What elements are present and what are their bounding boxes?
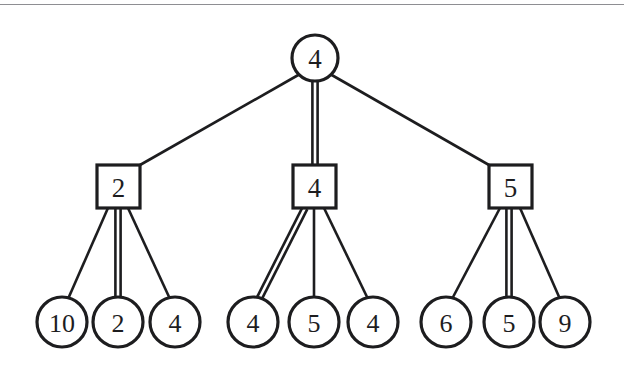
internal-node-2-0-label: 2 xyxy=(112,173,126,203)
edge-e-right-3 xyxy=(520,208,560,299)
edge-line-b xyxy=(257,207,303,298)
leaf-node-5-label: 4 xyxy=(367,309,380,338)
edge-e-left-2 xyxy=(115,208,120,297)
leaf-node-2[interactable]: 4 xyxy=(150,297,200,347)
edge-e-left-1 xyxy=(68,208,108,299)
leaf-node-5[interactable]: 4 xyxy=(348,297,398,347)
edge-e-root-right xyxy=(330,74,489,165)
leaf-node-3[interactable]: 4 xyxy=(228,297,278,347)
leaf-node-4-label: 5 xyxy=(308,309,321,338)
leaf-node-1[interactable]: 2 xyxy=(93,297,143,347)
leaf-node-0-label: 10 xyxy=(49,309,75,338)
leaf-node-8[interactable]: 9 xyxy=(540,297,590,347)
edge-e-root-left xyxy=(140,74,300,165)
tree-diagram-svg: 24541024454659 xyxy=(0,0,624,370)
leaf-node-4[interactable]: 5 xyxy=(289,297,339,347)
edge-line xyxy=(520,208,560,299)
edge-line xyxy=(128,208,170,299)
internal-node-5-2-label: 5 xyxy=(504,173,518,203)
edge-e-mid-1 xyxy=(257,207,308,300)
internal-node-2-0[interactable]: 2 xyxy=(97,165,140,208)
leaf-node-6[interactable]: 6 xyxy=(421,297,471,347)
leaf-node-7[interactable]: 5 xyxy=(484,297,534,347)
edge-line xyxy=(68,208,108,299)
nodes-layer: 24541024454659 xyxy=(37,35,590,347)
diagram-canvas: 24541024454659 xyxy=(0,0,624,370)
leaf-node-3-label: 4 xyxy=(247,309,260,338)
edge-line xyxy=(452,208,500,299)
edge-line xyxy=(140,74,300,165)
edge-e-root-middle xyxy=(312,81,317,165)
edge-line xyxy=(324,208,368,299)
edge-e-mid-3 xyxy=(324,208,368,299)
edge-e-right-1 xyxy=(452,208,500,299)
leaf-node-1-label: 2 xyxy=(112,309,125,338)
internal-node-5-2[interactable]: 5 xyxy=(489,165,532,208)
leaf-node-2-label: 4 xyxy=(169,309,182,338)
edge-e-left-3 xyxy=(128,208,170,299)
root-node-label: 4 xyxy=(308,44,322,74)
edge-line xyxy=(330,74,489,165)
edge-e-right-2 xyxy=(506,208,511,297)
leaf-node-8-label: 9 xyxy=(559,309,572,338)
root-node[interactable]: 4 xyxy=(292,35,338,81)
edge-line-a xyxy=(261,209,307,300)
internal-node-4-1-label: 4 xyxy=(308,173,322,203)
leaf-node-7-label: 5 xyxy=(503,309,516,338)
internal-node-4-1[interactable]: 4 xyxy=(293,165,336,208)
leaf-node-0[interactable]: 10 xyxy=(37,297,87,347)
leaf-node-6-label: 6 xyxy=(440,309,453,338)
